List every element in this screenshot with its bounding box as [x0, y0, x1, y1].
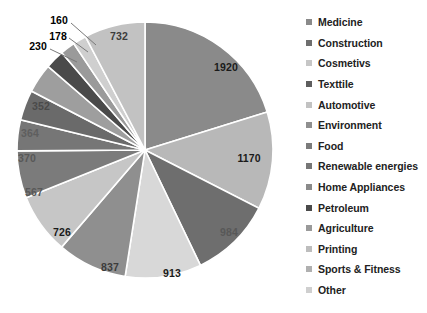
legend-item[interactable]: Petroleum: [306, 197, 427, 218]
slice-value-label: 567: [25, 186, 43, 198]
legend-swatch-icon: [306, 122, 312, 128]
legend-item-label: Food: [318, 140, 343, 152]
legend-item-label: Construction: [318, 37, 383, 49]
legend-item[interactable]: Automotive: [306, 94, 427, 115]
legend-item-label: Home Appliances: [318, 181, 405, 193]
legend-swatch-icon: [306, 81, 312, 87]
legend-swatch-icon: [306, 184, 312, 190]
slice-value-label: 364: [21, 127, 39, 139]
legend-swatch-icon: [306, 40, 312, 46]
legend-swatch-icon: [306, 163, 312, 169]
legend-swatch-icon: [306, 102, 312, 108]
legend-swatch-icon: [306, 246, 312, 252]
legend-item[interactable]: Home Appliances: [306, 177, 427, 198]
legend-item-label: Renewable energies: [318, 160, 418, 172]
legend-item[interactable]: Medicine: [306, 12, 427, 33]
legend-item[interactable]: Texttile: [306, 74, 427, 95]
legend-item-label: Environment: [318, 119, 382, 131]
legend-item[interactable]: Food: [306, 136, 427, 157]
slice-value-label: 984: [220, 226, 238, 238]
legend-item-label: Agriculture: [318, 222, 373, 234]
legend-item[interactable]: Agriculture: [306, 218, 427, 239]
legend-item-label: Automotive: [318, 99, 375, 111]
legend-item-label: Petroleum: [318, 202, 369, 214]
legend-swatch-icon: [306, 205, 312, 211]
pie-plot-area: 1920117098491383772656737036435223017816…: [0, 0, 290, 313]
legend-item-label: Cosmetivs: [318, 57, 371, 69]
slice-value-label: 352: [32, 100, 50, 112]
legend-swatch-icon: [306, 19, 312, 25]
legend-swatch-icon: [306, 266, 312, 272]
slice-value-label: 726: [53, 226, 71, 238]
legend-swatch-icon: [306, 287, 312, 293]
legend-item[interactable]: Sports & Fitness: [306, 259, 427, 280]
slice-value-label: 1920: [214, 61, 238, 73]
slice-callout-value-label: 230: [29, 40, 47, 52]
legend-swatch-icon: [306, 225, 312, 231]
slice-value-label: 1170: [237, 152, 260, 164]
pie-chart-figure: 1920117098491383772656737036435223017816…: [0, 0, 427, 313]
slice-callout-value-label: 178: [49, 30, 67, 42]
legend-item-label: Sports & Fitness: [318, 263, 401, 275]
legend-item-label: Other: [318, 284, 346, 296]
slice-value-label: 370: [18, 152, 36, 164]
legend-swatch-icon: [306, 60, 312, 66]
legend-item-label: Medicine: [318, 16, 363, 28]
legend-item[interactable]: Printing: [306, 239, 427, 260]
legend-item[interactable]: Other: [306, 280, 427, 301]
legend-item-label: Texttile: [318, 78, 354, 90]
slice-callout-value-label: 160: [50, 14, 68, 26]
slice-value-label: 913: [163, 267, 181, 279]
chart-legend: MedicineConstructionCosmetivsTexttileAut…: [306, 12, 427, 300]
legend-item[interactable]: Environment: [306, 115, 427, 136]
legend-item[interactable]: Renewable energies: [306, 156, 427, 177]
legend-item[interactable]: Cosmetivs: [306, 53, 427, 74]
slice-value-label: 732: [110, 30, 128, 42]
legend-item-label: Printing: [318, 243, 357, 255]
legend-swatch-icon: [306, 143, 312, 149]
slice-value-label: 837: [101, 261, 119, 273]
legend-item[interactable]: Construction: [306, 33, 427, 54]
